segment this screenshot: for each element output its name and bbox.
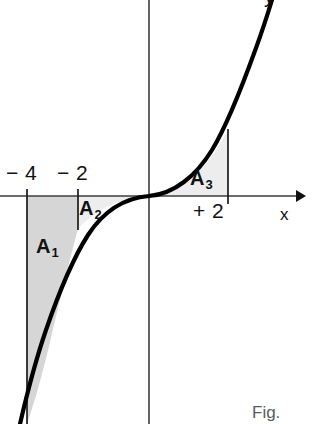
area-label-a3-letter: A <box>190 167 204 189</box>
area-label-a2-subscript: 2 <box>94 207 101 222</box>
y-axis-label: y <box>264 0 274 6</box>
plot-canvas <box>0 0 317 424</box>
tick-label-plus-two: + 2 <box>193 200 224 221</box>
x-axis-arrow-icon <box>296 190 306 202</box>
area-label-a3: A3 <box>190 168 212 188</box>
area-label-a2-letter: A <box>79 197 93 219</box>
tick-label-minus-four: − 4 <box>6 162 37 183</box>
area-label-a1-subscript: 1 <box>51 245 58 260</box>
area-label-a1-letter: A <box>36 235 50 257</box>
figure-caption: Fig. <box>252 404 280 421</box>
tick-label-minus-two: − 2 <box>57 162 88 183</box>
area-label-a1: A1 <box>36 236 58 256</box>
figure-container: − 4 − 2 + 2 A1 A2 A3 x y Fig. <box>0 0 317 424</box>
area-label-a3-subscript: 3 <box>205 177 212 192</box>
x-axis-label: x <box>280 206 289 223</box>
area-label-a2: A2 <box>79 198 101 218</box>
